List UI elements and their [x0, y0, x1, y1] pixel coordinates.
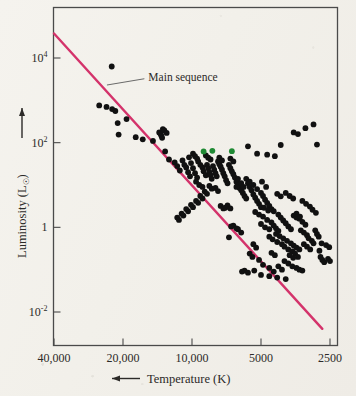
data-point — [228, 224, 234, 230]
data-point — [230, 159, 236, 165]
data-point — [245, 143, 251, 149]
x-tick-label: 5000 — [249, 351, 273, 365]
data-point — [219, 158, 225, 164]
data-point — [256, 257, 262, 263]
data-point — [214, 173, 220, 179]
data-point — [295, 254, 301, 260]
data-point — [116, 132, 122, 138]
data-point — [259, 179, 265, 185]
up-arrow-icon — [19, 108, 25, 138]
data-point — [251, 268, 257, 274]
data-point — [181, 213, 187, 219]
x-tick-label: 2500 — [318, 351, 342, 365]
data-point — [190, 165, 196, 171]
y-tick-label: 102 — [32, 135, 48, 150]
x-axis-ticks: 40,00020,00010,00050002500 — [38, 339, 343, 365]
data-point — [225, 180, 231, 186]
data-point — [317, 248, 323, 254]
data-point — [215, 188, 221, 194]
scatter-points — [96, 64, 333, 282]
main-sequence-annotation: Main sequence — [107, 71, 218, 85]
data-point — [260, 262, 266, 268]
data-point — [283, 276, 289, 282]
data-point — [185, 208, 191, 214]
data-point — [266, 265, 272, 271]
data-point — [279, 267, 285, 273]
data-point — [222, 205, 228, 211]
data-point — [313, 210, 319, 216]
data-point — [254, 151, 260, 157]
data-point — [109, 64, 115, 70]
data-point — [166, 157, 172, 163]
data-point — [234, 225, 240, 231]
data-point — [96, 102, 102, 108]
data-point — [195, 200, 201, 206]
left-arrow-icon — [112, 376, 140, 382]
y-axis-title: Luminosity (L☉) — [15, 174, 31, 258]
data-point — [296, 247, 302, 253]
y-tick-label: 10-2 — [29, 304, 48, 319]
y-axis-title-group: Luminosity (L☉) — [15, 108, 31, 258]
x-tick-label: 20,000 — [107, 351, 140, 365]
data-point — [250, 254, 256, 260]
data-point — [314, 142, 320, 148]
data-point — [201, 149, 207, 155]
data-point — [316, 234, 322, 240]
data-point — [162, 149, 168, 155]
data-point — [164, 130, 170, 136]
data-point — [266, 226, 272, 232]
data-point — [187, 173, 193, 179]
data-point — [200, 196, 206, 202]
data-point — [253, 245, 259, 251]
data-point — [266, 273, 272, 279]
x-axis-title-group: Temperature (K) — [112, 372, 230, 386]
data-point — [238, 230, 244, 236]
main-sequence-label: Main sequence — [148, 71, 217, 84]
data-point — [209, 148, 215, 154]
data-point — [271, 269, 277, 275]
annotation-leader-line — [107, 79, 144, 85]
data-point — [209, 186, 215, 192]
data-point — [326, 244, 332, 250]
data-point — [234, 184, 240, 190]
x-tick-label: 40,000 — [38, 351, 71, 365]
data-point — [265, 208, 271, 214]
data-point — [140, 136, 146, 142]
data-point — [290, 255, 296, 261]
data-point — [112, 108, 118, 114]
data-point — [272, 252, 278, 258]
data-point — [307, 247, 313, 253]
x-tick-label: 10,000 — [176, 351, 209, 365]
data-point — [104, 104, 110, 110]
data-point — [290, 196, 296, 202]
data-point — [176, 217, 182, 223]
data-point — [177, 168, 183, 174]
data-point — [303, 222, 309, 228]
data-point — [311, 240, 317, 246]
data-point — [288, 226, 294, 232]
data-point — [278, 193, 284, 199]
data-point — [115, 120, 121, 126]
data-point — [274, 275, 280, 281]
data-point — [258, 272, 264, 278]
data-point — [150, 138, 156, 144]
data-point — [239, 269, 245, 275]
y-tick-label: 104 — [32, 50, 48, 65]
data-point — [229, 148, 235, 154]
y-axis-ticks: 104102110-2 — [29, 50, 61, 319]
data-point — [264, 152, 270, 158]
data-point — [303, 125, 309, 131]
data-point — [297, 214, 303, 220]
data-point — [263, 184, 269, 190]
data-point — [133, 134, 139, 140]
data-point — [124, 116, 130, 122]
x-axis-title: Temperature (K) — [147, 372, 230, 386]
data-point — [159, 135, 165, 141]
data-point — [245, 270, 251, 276]
data-point — [188, 160, 194, 166]
data-point — [190, 204, 196, 210]
data-point — [226, 234, 232, 240]
data-point — [278, 142, 284, 148]
data-point — [209, 176, 215, 182]
data-point — [243, 196, 249, 202]
